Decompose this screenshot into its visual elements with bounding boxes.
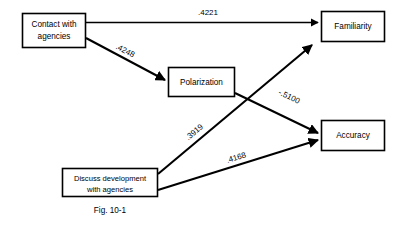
node-label-familiarity: Familiarity — [334, 22, 372, 31]
node-familiarity: Familiarity — [322, 12, 385, 42]
node-label-discuss-line1: Discuss development — [74, 174, 147, 183]
edge-label-contact-familiarity: .4221 — [198, 8, 219, 17]
node-label-contact-line1: Contact with — [31, 20, 76, 29]
edge-label-polarization-accuracy: -.5100 — [277, 88, 302, 106]
edge-label-contact-polarization: .4248 — [114, 42, 136, 60]
path-diagram-figure: .4221 .4248 -.5100 .3919 .4168 Contact w… — [0, 0, 407, 231]
edge-contact-to-polarization — [86, 38, 165, 80]
node-box-contact — [23, 14, 86, 48]
figure-caption: Fig. 10-1 — [94, 206, 127, 215]
node-label-polarization: Polarization — [180, 78, 223, 87]
node-label-contact-line2: agencies — [38, 32, 71, 41]
edge-discuss-to-accuracy — [158, 140, 318, 190]
node-label-discuss-line2: with agencies — [86, 185, 133, 194]
path-diagram-canvas: .4221 .4248 -.5100 .3919 .4168 Contact w… — [0, 0, 407, 231]
edge-label-discuss-familiarity: .3919 — [184, 122, 206, 142]
node-accuracy: Accuracy — [322, 121, 385, 151]
node-contact-with-agencies: Contact with agencies — [23, 14, 86, 48]
node-label-accuracy: Accuracy — [336, 131, 371, 140]
node-polarization: Polarization — [169, 68, 235, 97]
node-discuss-development: Discuss development with agencies — [63, 169, 158, 197]
